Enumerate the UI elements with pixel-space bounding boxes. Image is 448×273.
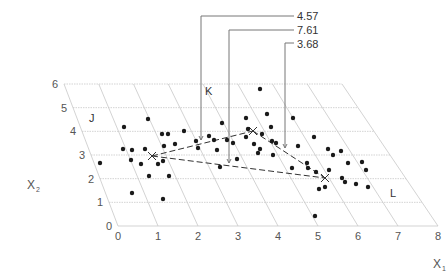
data-point bbox=[207, 134, 211, 138]
data-point bbox=[317, 187, 321, 191]
data-point bbox=[291, 116, 295, 120]
data-points bbox=[98, 87, 370, 218]
data-point bbox=[314, 170, 318, 174]
data-point bbox=[225, 138, 229, 142]
distance-label-kl: 3.68 bbox=[297, 38, 318, 50]
data-point bbox=[167, 174, 171, 178]
x2-tick-label: 6 bbox=[52, 78, 58, 90]
data-point bbox=[160, 132, 164, 136]
distance-label-jk: 4.57 bbox=[297, 10, 318, 22]
data-point bbox=[271, 153, 275, 157]
data-point bbox=[258, 147, 262, 151]
data-point bbox=[306, 166, 310, 170]
data-point bbox=[161, 159, 165, 163]
data-point bbox=[296, 144, 300, 148]
data-point bbox=[139, 162, 143, 166]
data-point bbox=[121, 147, 125, 151]
data-point bbox=[252, 142, 256, 146]
leader-line bbox=[201, 16, 294, 140]
data-point bbox=[343, 180, 347, 184]
data-point bbox=[231, 141, 235, 145]
cluster-labels: J K L bbox=[89, 85, 396, 199]
x1-tick-label: 7 bbox=[395, 230, 401, 242]
x1-tick-label: 6 bbox=[355, 230, 361, 242]
x1-tick-label: 0 bbox=[115, 230, 121, 242]
data-point bbox=[312, 135, 316, 139]
x2-tick-label: 2 bbox=[88, 173, 94, 185]
data-point bbox=[274, 141, 278, 145]
x1-tick-label: 4 bbox=[275, 230, 281, 242]
leader-line bbox=[229, 30, 294, 163]
x1-axis-subscript: 1 bbox=[442, 265, 446, 272]
data-point bbox=[366, 185, 370, 189]
x2-tick-label: 5 bbox=[61, 102, 67, 114]
x2-tick-label: 0 bbox=[106, 220, 112, 232]
data-point bbox=[339, 149, 343, 153]
data-point bbox=[173, 142, 177, 146]
data-point bbox=[130, 148, 134, 152]
data-point bbox=[346, 161, 350, 165]
data-point bbox=[246, 127, 250, 131]
data-point bbox=[196, 146, 200, 150]
cluster-label-l: L bbox=[390, 187, 396, 199]
data-point bbox=[258, 87, 262, 91]
data-point bbox=[220, 121, 224, 125]
data-point bbox=[98, 161, 102, 165]
data-point bbox=[129, 158, 133, 162]
x2-tick-label: 3 bbox=[79, 149, 85, 161]
x1-x2-grid-plane bbox=[64, 84, 438, 226]
data-point bbox=[327, 168, 331, 172]
data-point bbox=[290, 166, 294, 170]
data-point bbox=[265, 112, 269, 116]
distance-label-jl: 7.61 bbox=[297, 24, 318, 36]
data-point bbox=[244, 116, 248, 120]
data-point bbox=[256, 151, 260, 155]
data-point bbox=[122, 125, 126, 129]
data-point bbox=[156, 162, 160, 166]
data-point bbox=[269, 125, 273, 129]
data-point bbox=[326, 147, 330, 151]
data-point bbox=[323, 185, 327, 189]
data-point bbox=[244, 135, 248, 139]
data-point bbox=[331, 153, 335, 157]
cluster-label-k: K bbox=[205, 85, 213, 97]
data-point bbox=[162, 144, 166, 148]
x1-tick-label: 3 bbox=[235, 230, 241, 242]
x2-tick-label: 1 bbox=[97, 196, 103, 208]
x1-tick-label: 8 bbox=[435, 230, 441, 242]
grid-col-line bbox=[134, 84, 199, 226]
data-point bbox=[354, 182, 358, 186]
data-point bbox=[215, 148, 219, 152]
data-point bbox=[340, 176, 344, 180]
cluster-plane-diagram: 0123456780123456 J K L 4.57 7.61 3.68 X … bbox=[0, 0, 448, 273]
data-point bbox=[130, 191, 134, 195]
data-point bbox=[260, 132, 264, 136]
axis-title-x1: X 1 bbox=[433, 257, 446, 272]
data-point bbox=[235, 157, 239, 161]
leader-line bbox=[285, 43, 294, 148]
x2-axis-title: X bbox=[27, 178, 35, 192]
x1-tick-label: 1 bbox=[155, 230, 161, 242]
data-point bbox=[146, 117, 150, 121]
data-point bbox=[270, 139, 274, 143]
data-point bbox=[182, 129, 186, 133]
data-point bbox=[313, 214, 317, 218]
x1-axis-title: X bbox=[433, 257, 441, 271]
distance-callouts: 4.57 7.61 3.68 bbox=[297, 10, 318, 50]
axis-ticks: 0123456780123456 bbox=[52, 78, 441, 242]
data-point bbox=[218, 165, 222, 169]
data-point bbox=[360, 160, 364, 164]
data-point bbox=[212, 138, 216, 142]
x1-tick-label: 2 bbox=[195, 230, 201, 242]
x1-tick-label: 5 bbox=[315, 230, 321, 242]
data-point bbox=[364, 168, 368, 172]
x2-axis-subscript: 2 bbox=[36, 186, 40, 193]
data-point bbox=[305, 161, 309, 165]
data-point bbox=[143, 147, 147, 151]
centroid-distance-triangle bbox=[148, 127, 329, 182]
x2-tick-label: 4 bbox=[70, 125, 76, 137]
data-point bbox=[161, 197, 165, 201]
axis-title-x2: X 2 bbox=[27, 178, 40, 193]
data-point bbox=[166, 132, 170, 136]
data-point bbox=[194, 139, 198, 143]
